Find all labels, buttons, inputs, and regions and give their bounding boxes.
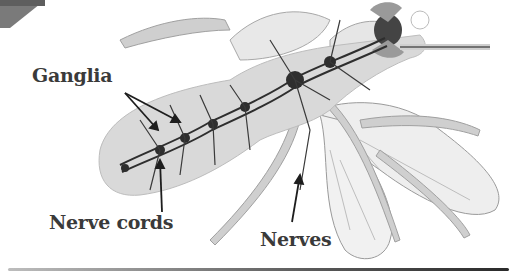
label-nerves: Nerves [260, 228, 332, 250]
diagram-canvas: Ganglia Nerve cords Nerves [0, 0, 529, 271]
label-nerve-cords: Nerve cords [49, 211, 173, 233]
label-ganglia: Ganglia [32, 64, 112, 86]
head [370, 2, 490, 58]
